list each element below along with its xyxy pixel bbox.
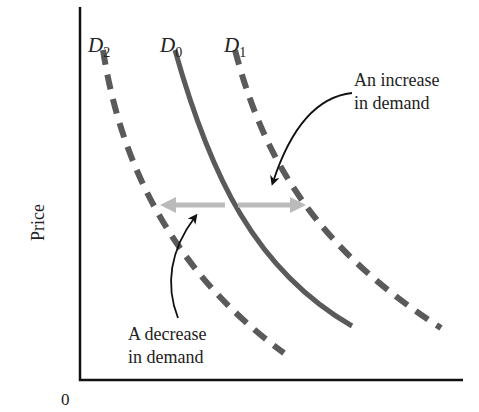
origin-label: 0 [61, 390, 70, 410]
label-d2: D2 [88, 33, 110, 61]
diagram-canvas [0, 0, 479, 412]
curve-d0 [175, 50, 352, 326]
demand-shift-diagram: D2 D0 D1 An increase in demand A decreas… [0, 0, 479, 412]
annotation-decrease: A decrease in demand [128, 323, 206, 369]
label-d0: D0 [160, 33, 182, 61]
annotation-increase: An increase in demand [354, 69, 439, 115]
shift-arrow-left [160, 197, 225, 213]
curve-d2 [103, 50, 284, 353]
shift-arrow-right [238, 197, 306, 213]
label-d1: D1 [224, 33, 246, 61]
y-axis-label: Price [28, 204, 49, 241]
